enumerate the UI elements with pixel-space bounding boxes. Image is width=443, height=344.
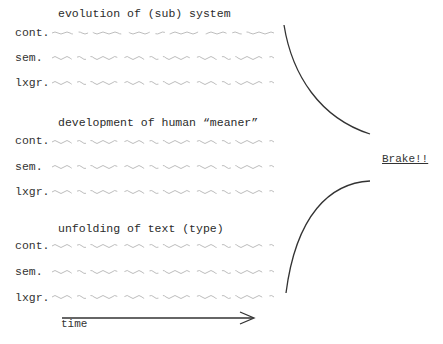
wave-lxgr-3 [52, 296, 274, 299]
wave-cont-3 [52, 245, 274, 248]
wave-lxgr-1 [52, 82, 274, 85]
wave-cont-1 [52, 32, 274, 34]
wave-cont-2 [52, 141, 274, 144]
wave-lxgr-2 [52, 191, 274, 194]
upper-brake-curve [284, 25, 370, 134]
lower-brake-curve [286, 181, 370, 293]
wave-sem-1 [52, 57, 274, 60]
time-axis-label: time [61, 318, 87, 330]
time-arrow [62, 312, 254, 324]
wave-sem-3 [52, 271, 274, 274]
wave-lines [0, 0, 443, 344]
brake-annotation: Brake!! [382, 153, 428, 165]
wave-sem-2 [52, 166, 274, 169]
